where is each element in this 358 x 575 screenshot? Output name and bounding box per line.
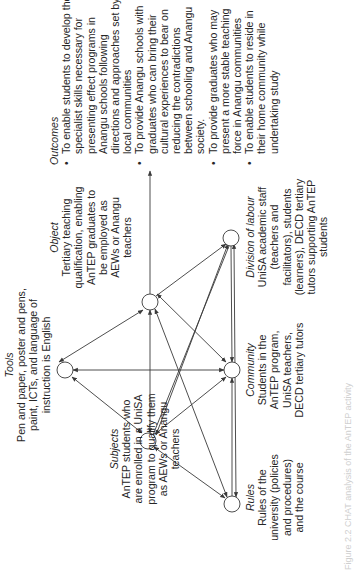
subjects-body: AnTEP students who are enrolled in a Uni… xyxy=(120,393,181,505)
tools-label: Tools Pen and paper, poster and pens, pa… xyxy=(3,285,52,445)
node-division-of-labour xyxy=(223,230,239,246)
rules-heading: Rules xyxy=(244,450,256,545)
node-rules xyxy=(224,496,240,512)
edge-division-object xyxy=(156,244,226,296)
rules-label: Rules Rules of the university (policies … xyxy=(244,450,305,545)
outcomes-heading: Outcomes xyxy=(48,0,60,165)
tools-heading: Tools xyxy=(3,285,15,445)
division-of-labour-label: Division of labour UniSA academic staff … xyxy=(244,177,329,297)
node-tools xyxy=(57,362,73,378)
object-heading: Object xyxy=(48,185,60,290)
rules-body: Rules of the university (policies and pr… xyxy=(256,450,305,545)
edge-division-community xyxy=(231,246,232,362)
outcome-item: To provide Anangu schools with graduates… xyxy=(133,0,206,154)
community-heading: Community xyxy=(244,320,256,420)
figure-caption: Figure 2.2 CHAT analysis of the AnTEP ac… xyxy=(343,383,353,570)
outcome-item: To enable students to reside in their ho… xyxy=(243,0,280,154)
community-label: Community Students in the AnTEP program,… xyxy=(244,320,305,420)
edge-tools-object xyxy=(59,310,143,362)
outcome-item: To enable students to develop the specia… xyxy=(60,0,133,154)
node-community xyxy=(224,362,240,378)
division-of-labour-body: UniSA academic staff (teachers and facil… xyxy=(256,177,329,297)
node-object xyxy=(142,294,158,310)
edge-object-community xyxy=(157,294,226,362)
subjects-label: Subjects AnTEP students who are enrolled… xyxy=(108,393,181,505)
tools-body: Pen and paper, poster and pens, paint, I… xyxy=(15,285,52,445)
object-body: Tertiary teaching qualification, enablin… xyxy=(60,185,133,290)
outcomes-block: Outcomes To enable students to develop t… xyxy=(48,0,280,165)
subjects-heading: Subjects xyxy=(108,393,120,505)
outcomes-list: To enable students to develop the specia… xyxy=(60,0,280,165)
outcome-item: To provide graduates who may present a m… xyxy=(207,0,244,154)
division-of-labour-heading: Division of labour xyxy=(244,177,256,297)
activity-system-diagram: Tools Pen and paper, poster and pens, pa… xyxy=(0,0,358,575)
community-body: Students in the AnTEP program, UniSA tea… xyxy=(256,320,305,420)
object-label: Object Tertiary teaching qualification, … xyxy=(48,185,133,290)
